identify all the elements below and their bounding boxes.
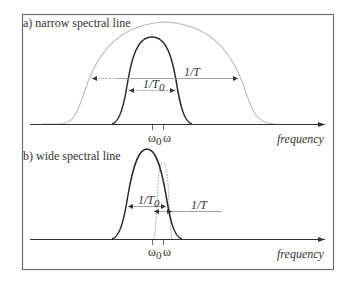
- panel-a: [30, 22, 325, 130]
- panel-b: [30, 149, 325, 245]
- inner-width-label: 1/T0: [143, 78, 165, 93]
- frequency-label-b: frequency: [277, 248, 324, 260]
- narrow-width-label: 1/T: [191, 199, 207, 211]
- panel-a-title: a) narrow spectral line: [23, 17, 131, 29]
- panel-b-title: b) wide spectral line: [23, 150, 121, 162]
- omega0-label-a: ω0: [148, 132, 161, 147]
- frequency-label-a: frequency: [277, 133, 324, 145]
- omega-label-b: ω: [163, 246, 171, 258]
- omega-label-a: ω: [163, 132, 171, 144]
- wide-width-label: 1/T0: [138, 194, 160, 209]
- outer-width-label: 1/T: [184, 66, 200, 78]
- wide-spectrum-curve: [42, 22, 275, 124]
- omega0-label-b: ω0: [148, 246, 161, 261]
